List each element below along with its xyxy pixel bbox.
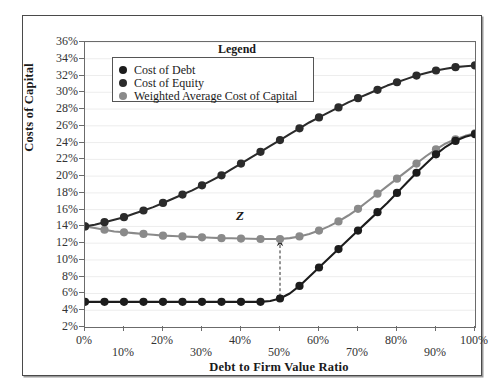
x-tick-mark bbox=[84, 326, 85, 331]
annotation-double-arrow bbox=[277, 239, 283, 302]
y-tick-label: 10% bbox=[38, 253, 78, 265]
x-tick-mark bbox=[318, 326, 319, 331]
y-tick-mark bbox=[79, 142, 84, 143]
y-tick-label: 28% bbox=[38, 102, 78, 114]
chart-figure: Costs of Capital 2%4%6%8%10%12%14%16%18%… bbox=[0, 0, 499, 389]
x-tick-mark bbox=[435, 326, 436, 331]
legend-item: Weighted Average Cost of Capital bbox=[119, 89, 297, 102]
annotation-label-z: Z bbox=[236, 208, 244, 224]
y-tick-mark bbox=[79, 276, 84, 277]
y-axis-title: Costs of Capital bbox=[22, 23, 37, 193]
y-tick-label: 16% bbox=[38, 203, 78, 215]
legend-item-label: Cost of Debt bbox=[134, 64, 195, 76]
y-tick-label: 20% bbox=[38, 169, 78, 181]
legend-item: Cost of Equity bbox=[119, 76, 204, 89]
y-tick-mark bbox=[79, 242, 84, 243]
y-tick-mark bbox=[79, 158, 84, 159]
y-tick-mark bbox=[79, 309, 84, 310]
y-tick-label: 36% bbox=[38, 35, 78, 47]
y-tick-label: 4% bbox=[38, 303, 78, 315]
y-tick-mark bbox=[79, 292, 84, 293]
y-tick-mark bbox=[79, 225, 84, 226]
y-tick-label: 6% bbox=[38, 286, 78, 298]
y-tick-label: 12% bbox=[38, 236, 78, 248]
y-tick-label: 18% bbox=[38, 186, 78, 198]
x-tick-mark bbox=[123, 326, 124, 331]
legend-item-label: Cost of Equity bbox=[134, 77, 204, 89]
x-tick-label: 0% bbox=[58, 334, 110, 346]
y-tick-mark bbox=[79, 41, 84, 42]
x-tick-label: 10% bbox=[97, 346, 149, 358]
y-tick-label: 24% bbox=[38, 136, 78, 148]
x-tick-label: 100% bbox=[448, 334, 499, 346]
x-tick-label: 40% bbox=[214, 334, 266, 346]
x-tick-mark bbox=[474, 326, 475, 331]
x-tick-mark bbox=[162, 326, 163, 331]
y-tick-mark bbox=[79, 91, 84, 92]
legend-marker-icon bbox=[119, 92, 127, 100]
y-tick-mark bbox=[79, 58, 84, 59]
x-tick-label: 80% bbox=[370, 334, 422, 346]
x-tick-label: 30% bbox=[175, 346, 227, 358]
x-tick-mark bbox=[279, 326, 280, 331]
y-tick-label: 8% bbox=[38, 270, 78, 282]
y-tick-label: 32% bbox=[38, 69, 78, 81]
x-tick-mark bbox=[357, 326, 358, 331]
y-tick-mark bbox=[79, 125, 84, 126]
y-tick-mark bbox=[79, 175, 84, 176]
y-tick-label: 14% bbox=[38, 219, 78, 231]
y-tick-mark bbox=[79, 108, 84, 109]
legend-marker-icon bbox=[119, 79, 127, 87]
x-axis-title: Debt to Firm Value Ratio bbox=[84, 360, 474, 375]
legend-title: Legend bbox=[172, 42, 302, 57]
x-tick-label: 20% bbox=[136, 334, 188, 346]
x-tick-label: 60% bbox=[292, 334, 344, 346]
legend-item: Cost of Debt bbox=[119, 63, 195, 76]
x-tick-label: 50% bbox=[253, 346, 305, 358]
y-tick-label: 30% bbox=[38, 85, 78, 97]
y-tick-mark bbox=[79, 259, 84, 260]
y-tick-mark bbox=[79, 192, 84, 193]
legend-item-label: Weighted Average Cost of Capital bbox=[134, 90, 297, 102]
x-tick-label: 70% bbox=[331, 346, 383, 358]
x-tick-mark bbox=[201, 326, 202, 331]
y-tick-mark bbox=[79, 209, 84, 210]
y-tick-label: 22% bbox=[38, 152, 78, 164]
y-tick-label: 2% bbox=[38, 320, 78, 332]
legend-marker-icon bbox=[119, 66, 127, 74]
x-tick-label: 90% bbox=[409, 346, 461, 358]
y-tick-mark bbox=[79, 75, 84, 76]
y-tick-label: 34% bbox=[38, 52, 78, 64]
x-tick-mark bbox=[240, 326, 241, 331]
legend-box: Cost of DebtCost of EquityWeighted Avera… bbox=[112, 57, 314, 102]
y-tick-label: 26% bbox=[38, 119, 78, 131]
x-tick-mark bbox=[396, 326, 397, 331]
